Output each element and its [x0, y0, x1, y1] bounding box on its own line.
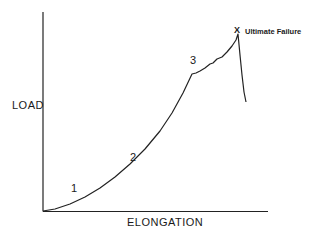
ultimate-failure-label: Ultimate Failure	[245, 28, 301, 36]
region-1-label: 1	[71, 183, 77, 194]
failure-marker: X	[234, 26, 240, 35]
x-axis-label: ELONGATION	[127, 217, 203, 228]
region-2-label: 2	[130, 152, 136, 163]
y-axis-label: LOAD	[12, 100, 44, 111]
region-3-label: 3	[190, 55, 196, 66]
